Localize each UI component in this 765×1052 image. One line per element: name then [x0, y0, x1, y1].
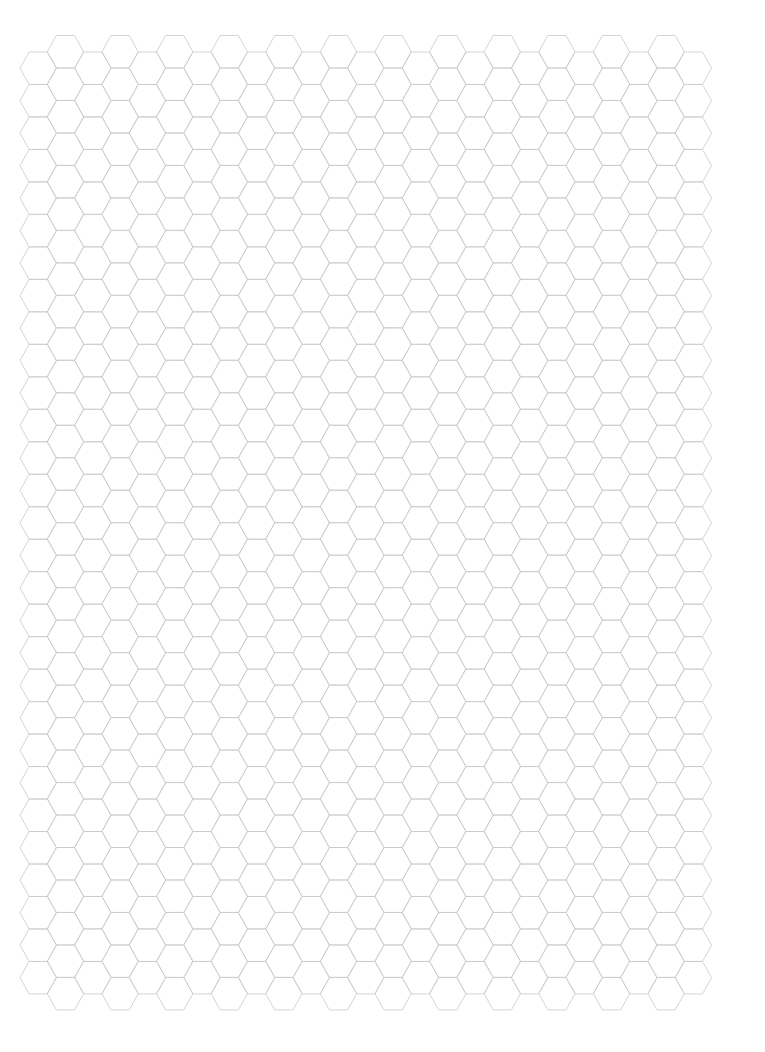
hex-grid-lines	[20, 36, 712, 1010]
hex-grid	[0, 0, 765, 1052]
